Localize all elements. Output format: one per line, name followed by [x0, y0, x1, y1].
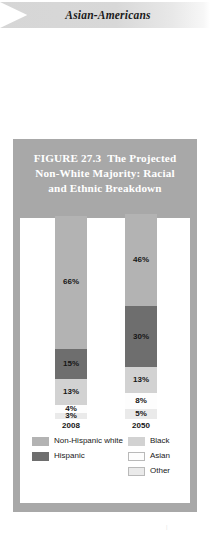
legend-item-black: Black — [128, 436, 190, 446]
legend-column-right: Black Asian Other — [128, 436, 190, 481]
bar-segment-2050-black: 13% — [125, 367, 157, 393]
legend-item-hispanic: Hispanic — [32, 451, 128, 461]
section-banner: Asian-Americans — [0, 2, 210, 28]
figure-title-line1: The Projected — [107, 152, 176, 164]
x-axis-label-2050: 2050 — [125, 421, 157, 430]
legend-swatch-icon — [128, 452, 145, 461]
figure-title-line3: and Ethnic Breakdown — [48, 182, 161, 194]
legend-label: Asian — [150, 451, 170, 461]
legend-column-left: Non-Hispanic white Hispanic — [32, 436, 128, 481]
bar-segment-label: 13% — [63, 388, 79, 396]
bar-segment-2008-black: 13% — [55, 379, 87, 405]
legend-swatch-icon — [128, 437, 145, 446]
legend-item-other: Other — [128, 466, 190, 476]
bar-segment-label: 15% — [63, 360, 79, 368]
stacked-bar-2008: 66% 15% 13% 4% 3% — [55, 216, 87, 419]
bar-segment-label: 46% — [133, 256, 149, 264]
bar-segment-2050-other: 5% — [125, 409, 157, 419]
bar-segment-label: 66% — [63, 278, 79, 286]
legend-label: Other — [150, 466, 170, 476]
chart-panel: 66% 15% 13% 4% 3% 2008 — [20, 218, 190, 503]
bar-segment-2050-asian: 8% — [125, 393, 157, 409]
figure-title: FIGURE 27.3 The Projected Non-White Majo… — [13, 139, 197, 205]
legend-swatch-icon — [32, 452, 49, 461]
bar-segment-label: 5% — [135, 410, 147, 418]
x-axis-label-2008: 2008 — [55, 421, 87, 430]
legend-swatch-icon — [32, 437, 49, 446]
bar-segment-2008-non-hispanic-white: 66% — [55, 216, 87, 349]
bar-group-2008: 66% 15% 13% 4% 3% 2008 — [55, 216, 87, 430]
bar-segment-label: 13% — [133, 376, 149, 384]
legend-label: Black — [150, 436, 170, 446]
page-mark: | — [166, 523, 167, 531]
figure-number: FIGURE 27.3 — [34, 152, 102, 164]
bar-segment-2008-hispanic: 15% — [55, 349, 87, 379]
bar-segment-2008-other: 3% — [55, 413, 87, 419]
figure-title-line2: Non-White Majority: Racial — [35, 167, 174, 179]
chart-plot-area: 66% 15% 13% 4% 3% 2008 — [20, 218, 190, 430]
stacked-bar-2050: 46% 30% 13% 8% 5% — [125, 214, 157, 419]
bar-segment-label: 3% — [65, 412, 77, 420]
figure-container: FIGURE 27.3 The Projected Non-White Majo… — [13, 139, 197, 512]
legend-label: Non-Hispanic white — [54, 436, 123, 446]
banner-title: Asian-Americans — [59, 9, 150, 21]
bar-segment-2050-hispanic: 30% — [125, 306, 157, 366]
legend-swatch-icon — [128, 467, 145, 476]
legend-item-non-hispanic-white: Non-Hispanic white — [32, 436, 128, 446]
legend-label: Hispanic — [54, 451, 85, 461]
legend-item-asian: Asian — [128, 451, 190, 461]
bar-segment-label: 30% — [133, 333, 149, 341]
bar-group-2050: 46% 30% 13% 8% 5% 2050 — [125, 214, 157, 430]
chart-legend: Non-Hispanic white Hispanic Black Asian — [20, 436, 190, 481]
bar-segment-label: 8% — [135, 397, 147, 405]
bar-segment-2050-non-hispanic-white: 46% — [125, 214, 157, 306]
